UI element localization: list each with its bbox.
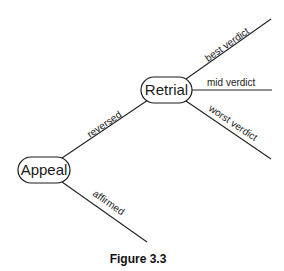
edge-label-reversed: reversed [85, 109, 123, 140]
edge-label-worst-verdict: worst verdict [206, 102, 260, 143]
figure-caption: Figure 3.3 [110, 252, 167, 266]
edge-affirmed [62, 182, 147, 242]
node-appeal: Appeal [18, 157, 70, 183]
node-label-appeal: Appeal [21, 161, 68, 178]
decision-tree-diagram: reversed affirmed best verdict mid verdi… [0, 0, 284, 271]
edge-label-best-verdict: best verdict [203, 25, 251, 63]
edge-label-mid-verdict: mid verdict [207, 77, 256, 88]
node-label-retrial: Retrial [145, 81, 188, 98]
node-retrial: Retrial [141, 77, 192, 103]
edge-worst-verdict [186, 101, 271, 159]
edge-label-affirmed: affirmed [91, 188, 127, 218]
